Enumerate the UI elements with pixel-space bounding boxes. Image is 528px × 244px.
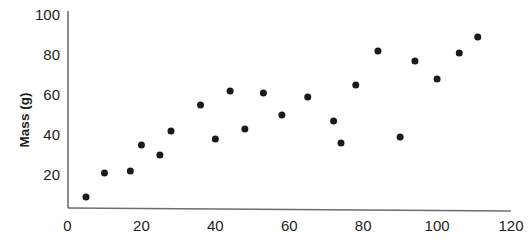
data-point: [241, 126, 248, 133]
data-point: [156, 152, 163, 159]
x-tick-label: 40: [185, 218, 245, 233]
y-tick-label: 40: [0, 127, 60, 142]
data-point: [212, 136, 219, 143]
data-point: [167, 128, 174, 135]
y-tick-label: 60: [0, 87, 60, 102]
x-tick-label: 60: [259, 218, 319, 233]
data-point: [278, 112, 285, 119]
x-tick-label: 0: [38, 218, 98, 233]
x-tick-label: 80: [333, 218, 393, 233]
data-point: [474, 34, 481, 41]
data-point: [411, 58, 418, 65]
data-point: [330, 118, 337, 125]
y-tick-label: 100: [0, 7, 60, 22]
x-tick-label: 120: [481, 218, 528, 233]
data-point: [260, 90, 267, 97]
data-points: [82, 34, 481, 201]
data-point: [374, 48, 381, 55]
data-point: [434, 76, 441, 83]
data-point: [82, 194, 89, 201]
data-point: [127, 168, 134, 175]
y-tick-label: 80: [0, 47, 60, 62]
data-point: [456, 50, 463, 57]
x-tick-label: 100: [407, 218, 467, 233]
data-point: [197, 102, 204, 109]
data-point: [397, 134, 404, 141]
data-point: [138, 142, 145, 149]
data-point: [352, 82, 359, 89]
axes: [68, 11, 511, 211]
x-axis-line: [68, 208, 511, 211]
x-tick-label: 20: [111, 218, 171, 233]
data-point: [227, 88, 234, 95]
y-tick-label: 20: [0, 167, 60, 182]
data-point: [337, 140, 344, 147]
data-point: [101, 170, 108, 177]
data-point: [304, 94, 311, 101]
